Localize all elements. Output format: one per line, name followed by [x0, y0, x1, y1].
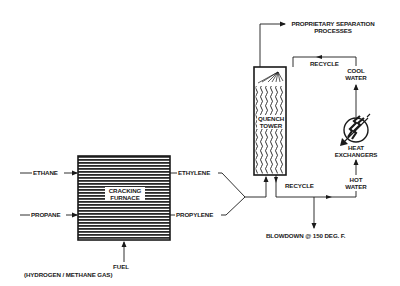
- separation-label-line1: PROPRIETARY SEPARATION: [287, 20, 379, 27]
- tower-label-line1: QUENCH: [258, 115, 284, 122]
- hot-water-label-line2: WATER: [343, 183, 369, 190]
- separation-outlet-line: [260, 24, 285, 67]
- ethane-label: ETHANE: [33, 169, 58, 176]
- tower-label: QUENCH TOWER: [257, 115, 285, 129]
- furnace-label-line1: CRACKING: [106, 187, 144, 194]
- furnace-label: CRACKING FURNACE: [105, 187, 145, 201]
- blowdown-label: BLOWDOWN @ 150 DEG. F.: [266, 232, 345, 239]
- hot-water-label: HOT WATER: [343, 176, 369, 190]
- combined-feed-to-tower-line: [245, 177, 266, 197]
- separation-label-line2: PROCESSES: [287, 27, 379, 34]
- hot-water-label-line1: HOT: [343, 176, 369, 183]
- fuel-label: FUEL: [106, 263, 136, 270]
- process-flow-diagram: [0, 0, 400, 286]
- recycle-top-label: RECYCLE: [310, 60, 339, 67]
- recycle-bottom-label: RECYCLE: [285, 182, 314, 189]
- cool-water-label-line1: COOL: [343, 67, 369, 74]
- cool-water-label-line2: WATER: [343, 74, 369, 81]
- ethylene-output-line: [170, 173, 245, 197]
- cool-water-label: COOL WATER: [343, 67, 369, 81]
- separation-label: PROPRIETARY SEPARATION PROCESSES: [287, 20, 379, 34]
- heat-exchanger-label: HEAT EXCHANGERS: [334, 144, 378, 158]
- propane-label: PROPANE: [31, 211, 60, 218]
- heat-exchanger-icon: [340, 114, 370, 146]
- furnace-label-line2: FURNACE: [106, 194, 144, 201]
- propylene-label: PROPYLENE: [176, 211, 213, 218]
- tower-label-line2: TOWER: [258, 122, 284, 129]
- heat-exchanger-label-line2: EXCHANGERS: [334, 151, 378, 158]
- fuel-detail-label: (HYDROGEN / METHANE GAS): [24, 271, 112, 278]
- heat-exchanger-label-line1: HEAT: [334, 144, 378, 151]
- ethylene-label: ETHYLENE: [178, 169, 210, 176]
